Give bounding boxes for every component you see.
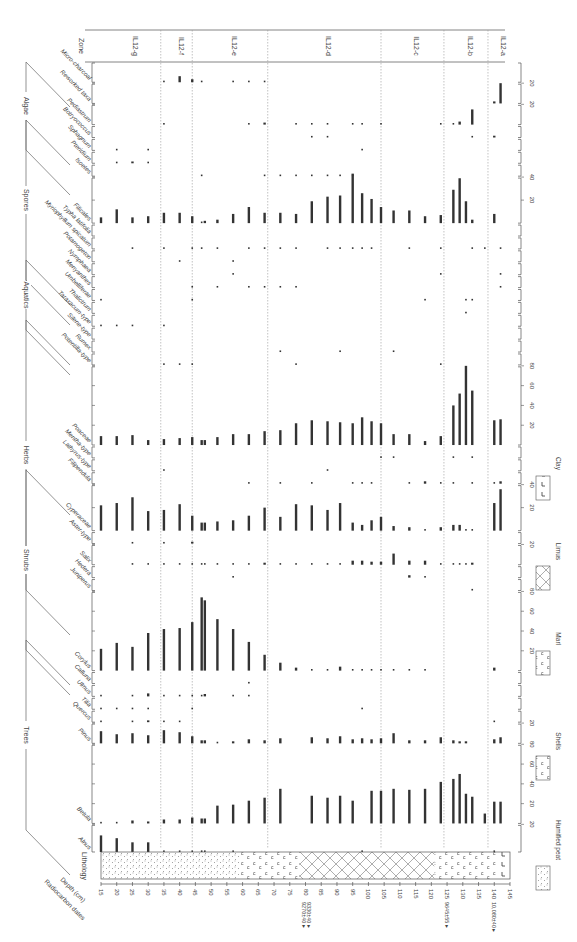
pollen-bar — [232, 741, 234, 743]
pollen-bar — [131, 733, 133, 743]
zone-label: IL12-f — [178, 37, 185, 55]
legend-swatch — [536, 756, 550, 780]
pollen-bar — [163, 629, 165, 671]
pollen-bar — [361, 149, 363, 151]
pollen-bar — [200, 523, 202, 531]
pollen-bar — [264, 286, 266, 288]
pollen-bar — [191, 622, 193, 670]
pollen-bar — [352, 123, 354, 125]
depth-tick-label: 130 — [460, 889, 466, 900]
depth-tick-label: 70 — [271, 889, 277, 896]
pollen-bar — [351, 739, 353, 743]
pollen-bar — [295, 123, 297, 125]
depth-tick-label: 145 — [507, 889, 513, 900]
pollen-bar — [191, 736, 193, 743]
pollen-bar — [178, 76, 180, 82]
pollen-bar — [452, 779, 454, 824]
pollen-bar — [232, 214, 234, 223]
pollen-bar — [339, 503, 341, 531]
pollen-bar — [440, 436, 442, 445]
depth-tick-label: 95 — [350, 889, 356, 896]
svg-text:20: 20 — [529, 720, 535, 727]
pollen-bar — [452, 525, 454, 531]
pollen-bar — [147, 735, 149, 743]
legend-label: Shells — [555, 732, 562, 750]
pollen-bar — [132, 708, 134, 710]
pollen-bar — [424, 789, 426, 824]
pollen-bar — [352, 482, 354, 484]
pollen-bar — [392, 526, 394, 531]
pollen-bar — [216, 619, 218, 670]
pollen-bar — [295, 247, 297, 249]
pollen-bar — [191, 542, 193, 544]
pollen-bar — [116, 149, 118, 151]
pollen-bar — [279, 738, 281, 743]
pollen-bar — [248, 247, 250, 249]
pollen-bar — [279, 789, 281, 824]
pollen-bar — [311, 123, 313, 125]
pollen-bar — [232, 695, 234, 697]
pollen-bar — [232, 563, 234, 565]
pollen-bar — [132, 542, 134, 544]
pollen-bar — [201, 81, 203, 83]
legend-label: Marl — [555, 632, 562, 645]
svg-text:60: 60 — [529, 608, 535, 615]
pollen-bar — [493, 739, 495, 743]
pollen-bar — [351, 561, 353, 565]
pollen-bar — [191, 516, 193, 531]
pollen-bar — [132, 695, 134, 697]
pollen-bar — [100, 649, 102, 671]
pollen-bar — [100, 708, 102, 710]
legend-label: Clay — [554, 457, 562, 471]
pollen-bar — [295, 286, 297, 288]
pollen-bar — [279, 430, 281, 445]
pollen-bar — [204, 563, 206, 565]
pollen-bar — [204, 694, 206, 696]
pollen-bar — [393, 456, 395, 458]
pollen-bar — [493, 101, 495, 103]
pollen-bar — [471, 220, 473, 223]
pollen-bar — [248, 482, 250, 484]
pollen-bar — [327, 563, 329, 565]
pollen-bar — [408, 434, 410, 445]
pollen-bar — [311, 737, 313, 743]
pollen-bar — [408, 527, 410, 530]
pollen-bar — [380, 738, 382, 743]
depth-tick-label: 65 — [255, 889, 261, 896]
svg-text:80: 80 — [529, 741, 535, 748]
svg-text:20: 20 — [529, 197, 535, 204]
pollen-bar — [493, 214, 495, 223]
zone-label: IL12-b — [467, 36, 474, 56]
pollen-bar — [100, 731, 102, 743]
svg-text:80: 80 — [529, 362, 535, 369]
pollen-bar — [370, 791, 372, 824]
pollen-bar — [453, 456, 455, 458]
pollen-bar — [326, 421, 328, 445]
pollen-bar — [204, 523, 206, 531]
pollen-bar — [248, 642, 250, 671]
pollen-bar — [424, 216, 426, 223]
legend-label: Humified peat — [554, 820, 562, 860]
pollen-bar — [248, 563, 250, 565]
pollen-bar — [263, 798, 265, 824]
depth-tick-label: 135 — [476, 889, 482, 900]
zone-bands: IL12-gIL12-fIL12-eIL12-dIL12-cIL12-bIL12… — [78, 30, 507, 848]
pollen-bar — [409, 247, 411, 249]
pollen-bar — [116, 643, 118, 671]
pollen-bar — [163, 730, 165, 743]
pollen-bar — [311, 420, 313, 445]
pollen-bar — [351, 174, 353, 223]
pollen-bar — [232, 520, 234, 530]
pollen-bar — [178, 819, 180, 823]
taxon-label: Betula — [76, 805, 94, 823]
pollen-bar — [380, 423, 382, 445]
pollen-bar — [493, 482, 495, 484]
pollen-bar — [232, 81, 234, 83]
pollen-bar — [499, 481, 501, 483]
pollen-bar — [393, 669, 395, 671]
pollen-bar — [217, 742, 219, 744]
pollen-bar — [263, 563, 265, 565]
pollen-bar — [280, 175, 282, 177]
pollen-bar — [131, 820, 133, 823]
pollen-bar — [370, 520, 372, 530]
